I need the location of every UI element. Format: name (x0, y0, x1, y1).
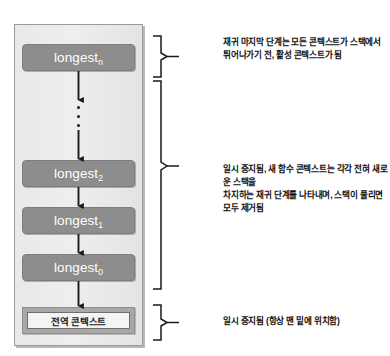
annotation-bottom: 일시 중지됨 (항상 맨 밑에 위치함) (223, 315, 388, 328)
recursion-call-stack-figure: longestn longest2 longest1 longest0 전역 콘… (0, 0, 390, 356)
annotation-braces (148, 24, 226, 354)
annotation-top: 재귀 마지막 단계는 모든 콘텍스트가 스택에서 튀어나가기 전, 활성 콘텍스… (223, 36, 388, 62)
ellipsis-dots (77, 106, 81, 132)
annotation-middle: 일시 중지됨, 새 함수 콘텍스트는 각각 전혀 새로운 스택을 차지하는 재귀… (223, 163, 389, 215)
brace-middle (153, 81, 167, 289)
brace-bottom (153, 305, 167, 340)
brace-top (153, 36, 167, 77)
